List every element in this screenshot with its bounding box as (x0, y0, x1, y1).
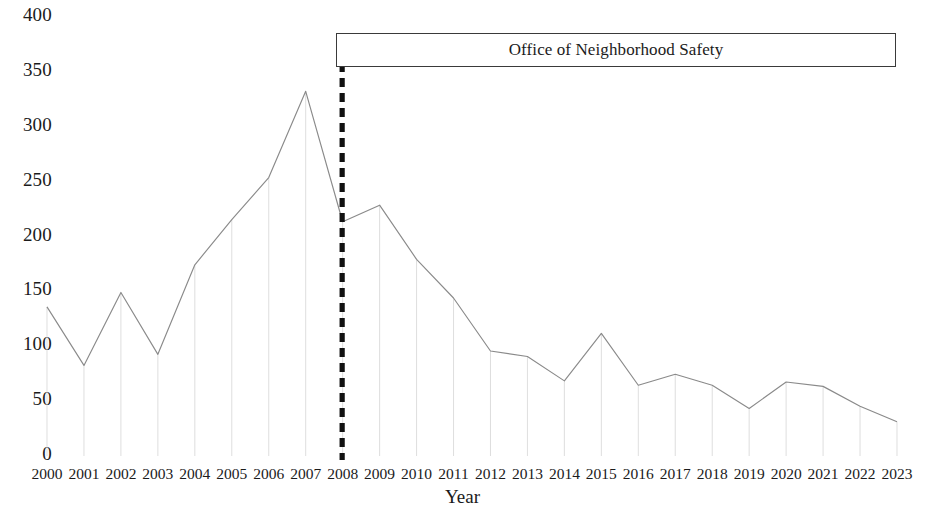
x-tick-2018: 2018 (693, 466, 731, 482)
x-tick-2017: 2017 (656, 466, 694, 482)
x-tick-2020: 2020 (767, 466, 805, 482)
line-chart: 400 350 300 250 200 150 100 50 0 Office … (0, 0, 925, 511)
series-line (47, 91, 897, 421)
annotation-box-office-of-neighborhood-safety: Office of Neighborhood Safety (336, 33, 896, 67)
x-tick-2006: 2006 (250, 466, 288, 482)
x-tick-2012: 2012 (471, 466, 509, 482)
x-tick-2022: 2022 (841, 466, 879, 482)
x-tick-2021: 2021 (804, 466, 842, 482)
x-tick-2009: 2009 (361, 466, 399, 482)
x-tick-2004: 2004 (176, 466, 214, 482)
x-tick-2010: 2010 (398, 466, 436, 482)
x-tick-2008: 2008 (324, 466, 362, 482)
x-tick-2005: 2005 (213, 466, 251, 482)
x-tick-2001: 2001 (65, 466, 103, 482)
x-tick-2000: 2000 (28, 466, 66, 482)
x-tick-2007: 2007 (287, 466, 325, 482)
x-tick-2013: 2013 (508, 466, 546, 482)
annotation-label: Office of Neighborhood Safety (509, 40, 724, 60)
x-tick-2014: 2014 (545, 466, 583, 482)
plot-area (0, 0, 925, 511)
drop-lines (47, 91, 897, 456)
x-tick-2002: 2002 (102, 466, 140, 482)
x-tick-2019: 2019 (730, 466, 768, 482)
x-tick-2011: 2011 (435, 466, 473, 482)
x-axis-title: Year (0, 486, 925, 508)
x-tick-2016: 2016 (619, 466, 657, 482)
x-tick-2023: 2023 (878, 466, 916, 482)
x-tick-2015: 2015 (582, 466, 620, 482)
x-tick-2003: 2003 (139, 466, 177, 482)
